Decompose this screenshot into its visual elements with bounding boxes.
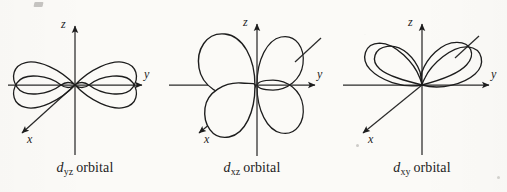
axis-label-x: x xyxy=(367,132,374,146)
figure-canvas: z y x dyzorbital xyxy=(0,0,507,192)
orbital-lobe-upper-right xyxy=(75,53,139,99)
caption-symbol: d xyxy=(57,160,64,175)
orbital-diagram-dxz: z y x xyxy=(163,0,341,160)
orbital-diagram-dxy: z y x xyxy=(337,0,507,160)
orbital-lobe-upper-left xyxy=(11,53,75,99)
axis-label-z: z xyxy=(60,17,66,31)
orbital-lobe-lower-right xyxy=(75,71,139,117)
caption-symbol: d xyxy=(224,160,231,175)
axis-label-z: z xyxy=(242,15,248,29)
axis-line-x xyxy=(363,85,422,133)
orbital-panel-dxy: z y x dxyorbital xyxy=(337,0,507,192)
panel-caption-dxz: dxzorbital xyxy=(163,160,341,177)
orbital-diagram-dyz: z y x xyxy=(0,0,170,160)
axis-line-x-positive-stub xyxy=(295,38,321,62)
caption-word: orbital xyxy=(413,160,450,175)
orbital-lobe-back-lower xyxy=(257,80,303,133)
axis-label-x: x xyxy=(26,132,33,146)
orbital-panel-dyz: z y x dyzorbital xyxy=(0,0,170,192)
orbital-lobe-right-front xyxy=(415,43,487,94)
orbital-lobe-lower-left xyxy=(11,71,75,117)
axis-label-y: y xyxy=(316,67,323,81)
orbital-lobe-back-upper xyxy=(257,37,303,90)
orbital-panel-dxz: z y x dxzorbital xyxy=(163,0,341,192)
axis-label-x: x xyxy=(203,132,210,146)
caption-word: orbital xyxy=(243,160,280,175)
panel-caption-dxy: dxyorbital xyxy=(337,160,507,177)
panel-caption-dyz: dyzorbital xyxy=(0,160,170,177)
caption-word: orbital xyxy=(76,160,113,175)
axis-label-y: y xyxy=(143,67,150,81)
axis-label-z: z xyxy=(407,15,413,29)
orbital-lobe-front-lower xyxy=(205,83,255,137)
caption-subscript: xy xyxy=(400,166,410,177)
caption-subscript: yz xyxy=(64,166,73,177)
caption-subscript: xz xyxy=(231,166,240,177)
axis-label-y: y xyxy=(490,67,497,81)
